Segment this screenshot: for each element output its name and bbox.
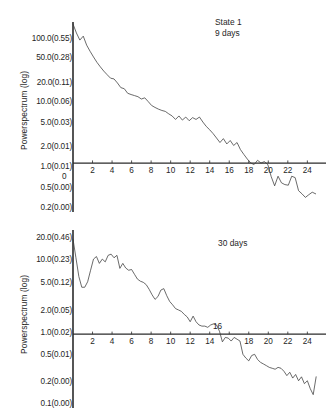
y-tick-label: 1.0(0.02)	[41, 329, 72, 337]
x-marker-16-bottom: 16	[213, 323, 222, 331]
y-tick-label: 2.0(0.05)	[41, 307, 72, 315]
x-tick-label: 20	[259, 167, 277, 175]
x-tick-label: 10	[162, 167, 180, 175]
y-tick-label: 0.5(0.00)	[41, 184, 72, 192]
x-tick-label: 2	[84, 167, 102, 175]
y-tick-label: 50.0(0.28)	[36, 54, 72, 62]
y-tick-label: 0.2(0.00)	[41, 378, 72, 386]
x-tick-label: 14	[201, 167, 219, 175]
x-tick-label: 24	[298, 167, 316, 175]
x-tick-label: 20	[259, 338, 277, 346]
x-tick-label: 18	[240, 338, 258, 346]
y-tick-label: 20.0(0.46)	[36, 234, 72, 242]
caption-state: State 1	[215, 17, 242, 28]
caption-duration: 30 days	[218, 238, 247, 249]
x-tick-label: 6	[123, 338, 141, 346]
x-tick-label: 4	[103, 167, 121, 175]
x-tick-label: 8	[142, 167, 160, 175]
x-tick-label: 22	[279, 167, 297, 175]
y-tick-labels-bottom: 20.0(0.46) 10.0(0.23) 5.0(0.12) 2.0(0.05…	[0, 212, 72, 414]
y-tick-label: 0.5(0.01)	[41, 351, 72, 359]
y-tick-label: 5.0(0.12)	[41, 279, 72, 287]
x-tick-label: 16	[220, 167, 238, 175]
x-tick-label: 2	[84, 338, 102, 346]
y-tick-label: 0.2(0.00)	[41, 204, 72, 212]
y-tick-label: 10.0(0.23)	[36, 256, 72, 264]
x-tick-label: 22	[279, 338, 297, 346]
y-tick-label: 0.1(0.00)	[41, 400, 72, 408]
chart-panel-bottom: 20.0(0.46) 10.0(0.23) 5.0(0.12) 2.0(0.05…	[0, 212, 330, 414]
y-axis-title-top: Powerspectrum (log)	[19, 71, 29, 150]
panel-caption-bottom: 30 days	[218, 238, 247, 249]
y-tick-label: 100.0(0.55)	[32, 35, 72, 43]
x-tick-label: 12	[181, 167, 199, 175]
x-tick-label: 14	[201, 338, 219, 346]
y-tick-label: 10.0(0.06)	[36, 98, 72, 106]
y-tick-label: 5.0(0.03)	[41, 119, 72, 127]
chart-panel-top: 100.0(0.55) 50.0(0.28) 20.0(0.11) 10.0(0…	[0, 0, 330, 212]
y-tick-label: 20.0(0.11)	[37, 79, 72, 87]
powerspectrum-figure: 100.0(0.55) 50.0(0.28) 20.0(0.11) 10.0(0…	[0, 0, 330, 414]
x-tick-label: 24	[298, 338, 316, 346]
panel-caption-top: State 1 9 days	[215, 17, 242, 40]
y-tick-label: 2.0(0.01)	[41, 143, 72, 151]
x-tick-label: 6	[123, 167, 141, 175]
x-tick-label: 12	[181, 338, 199, 346]
x-tick-label: 18	[240, 167, 258, 175]
x-tick-label: 10	[162, 338, 180, 346]
x-origin-label-top: 0	[62, 173, 67, 181]
x-tick-label: 8	[142, 338, 160, 346]
x-tick-label: 4	[103, 338, 121, 346]
y-tick-label: 1.0(0.01)	[41, 163, 72, 171]
caption-duration: 9 days	[215, 28, 242, 39]
y-axis-title-bottom: Powerspectrum (log)	[19, 275, 29, 354]
